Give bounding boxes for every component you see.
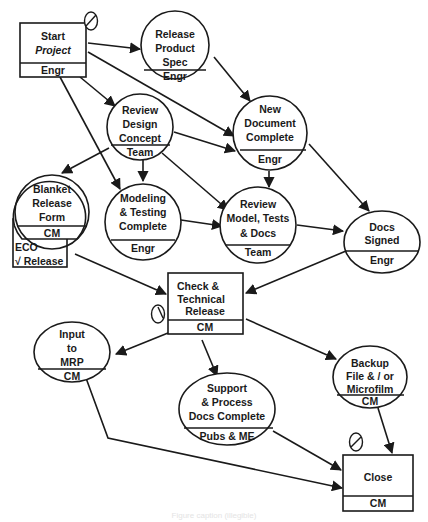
process-flow-diagram: Start Project Engr Release Product Spec … bbox=[0, 0, 428, 522]
node-label: MRP bbox=[60, 356, 83, 368]
node-release-product-spec: Release Product Spec Engr bbox=[141, 11, 209, 82]
node-label: Signed bbox=[364, 234, 399, 246]
edge-check-mrp bbox=[116, 333, 168, 354]
node-label: Microfilm bbox=[347, 383, 394, 395]
node-owner: Engr bbox=[163, 70, 187, 82]
edge-check-backup bbox=[246, 319, 336, 359]
node-owner: CM bbox=[362, 395, 379, 407]
node-owner: CM bbox=[44, 227, 61, 239]
node-label: Docs bbox=[369, 221, 395, 233]
node-label: to bbox=[67, 342, 77, 354]
node-label: Model, Tests bbox=[227, 212, 290, 224]
node-label: Blanket bbox=[33, 183, 71, 195]
clock-icon bbox=[85, 12, 98, 30]
node-blanket-release-form: Blanket Release Form CM bbox=[14, 175, 90, 249]
edge-check-support bbox=[202, 340, 217, 376]
figure-caption: Figure caption (illegible) bbox=[172, 511, 257, 520]
node-review-model-tests-docs: Review Model, Tests & Docs Team bbox=[220, 187, 296, 263]
eco-label: ECO bbox=[15, 241, 38, 253]
node-label: & Process bbox=[201, 396, 253, 408]
node-label: Review bbox=[240, 198, 277, 210]
node-label: Review bbox=[122, 104, 159, 116]
edge-start-review-design bbox=[80, 77, 115, 106]
node-label: Input bbox=[59, 328, 85, 340]
node-label: & Testing bbox=[119, 206, 166, 218]
node-owner: Engr bbox=[258, 153, 282, 165]
node-label: Project bbox=[35, 44, 71, 56]
node-owner: Engr bbox=[131, 242, 155, 254]
node-label: Concept bbox=[119, 132, 162, 144]
node-label: Close bbox=[364, 471, 393, 483]
node-label: Form bbox=[39, 211, 65, 223]
node-label: Docs Complete bbox=[189, 410, 266, 422]
node-label: Start bbox=[41, 30, 65, 42]
node-start-project: Start Project Engr bbox=[20, 23, 86, 77]
edge-review-design-new-doc bbox=[174, 132, 235, 151]
node-owner: Team bbox=[245, 246, 272, 258]
node-owner: CM bbox=[370, 497, 387, 509]
node-owner: Engr bbox=[41, 64, 65, 76]
node-label: Release bbox=[155, 28, 195, 40]
edge-backup-close bbox=[378, 408, 392, 453]
node-label: & Docs bbox=[240, 227, 276, 239]
node-label: Release bbox=[185, 305, 225, 317]
node-label: Design bbox=[122, 118, 157, 130]
node-close: Close CM bbox=[343, 455, 413, 511]
node-label: Modeling bbox=[120, 192, 166, 204]
node-label: Spec bbox=[162, 56, 187, 68]
edge-blanket-check bbox=[75, 254, 166, 294]
node-label: Complete bbox=[119, 220, 167, 232]
node-label: Check & bbox=[177, 280, 219, 292]
node-support-process-docs-complete: Support & Process Docs Complete Pubs & M… bbox=[179, 373, 275, 445]
edge-start-release bbox=[88, 43, 140, 49]
node-input-to-mrp: Input to MRP CM bbox=[34, 322, 110, 382]
node-owner: Team bbox=[127, 146, 154, 158]
node-label: Complete bbox=[246, 131, 294, 143]
node-owner: CM bbox=[64, 370, 81, 382]
edge-support-close bbox=[273, 431, 341, 470]
edge-review-model-docs-signed bbox=[297, 225, 343, 231]
node-label: Document bbox=[244, 117, 296, 129]
node-label: Product bbox=[155, 42, 195, 54]
edge-new-doc-docs-signed bbox=[309, 144, 369, 211]
eco-release-label: √ Release bbox=[15, 255, 64, 267]
node-docs-signed: Docs Signed Engr bbox=[344, 211, 420, 273]
node-review-design-concept: Review Design Concept Team bbox=[107, 94, 173, 160]
edge-modeling-review-model bbox=[181, 220, 222, 226]
node-label: Release bbox=[32, 197, 72, 209]
node-label: Backup bbox=[351, 357, 389, 369]
node-new-document-complete: New Document Complete Engr bbox=[233, 96, 307, 170]
edge-review-design-blanket bbox=[62, 148, 109, 173]
node-owner: Engr bbox=[370, 254, 394, 266]
node-backup-file-microfilm: Backup File & / or Microfilm CM bbox=[333, 346, 407, 408]
node-modeling-testing-complete: Modeling & Testing Complete Engr bbox=[105, 184, 181, 260]
node-label: Technical bbox=[177, 293, 225, 305]
edge-release-new-doc bbox=[214, 57, 250, 101]
clock-icon bbox=[350, 433, 363, 451]
node-check-technical-release: Check & Technical Release CM bbox=[168, 273, 243, 334]
clock-icon bbox=[152, 305, 165, 323]
node-owner: CM bbox=[197, 321, 214, 333]
node-label: Support bbox=[207, 382, 248, 394]
node-label: New bbox=[259, 103, 281, 115]
node-label: File & / or bbox=[346, 370, 394, 382]
node-owner: Pubs & ME bbox=[200, 430, 255, 442]
